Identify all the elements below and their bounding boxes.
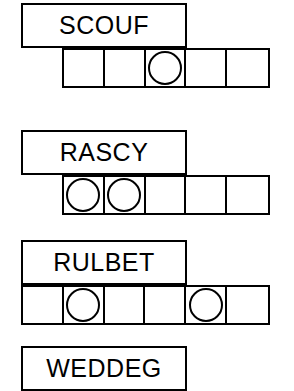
answer-cell[interactable] [145, 287, 186, 323]
answer-cell[interactable] [64, 177, 105, 213]
scrambled-word-text: SCOUF [59, 13, 149, 38]
scrambled-word-text: WEDDEG [46, 356, 162, 381]
answer-cell[interactable] [105, 50, 146, 86]
answer-cell[interactable] [64, 50, 105, 86]
highlight-circle-icon [66, 178, 100, 212]
scrambled-word-box-1: SCOUF [21, 3, 187, 48]
answer-grid-3 [21, 285, 270, 325]
answer-cell[interactable] [146, 50, 187, 86]
scrambled-word-text: RULBET [53, 250, 155, 275]
answer-cell[interactable] [105, 287, 146, 323]
answer-cell[interactable] [186, 287, 227, 323]
highlight-circle-icon [189, 288, 223, 322]
answer-grid-2 [62, 175, 270, 215]
scrambled-word-box-2: RASCY [21, 130, 187, 175]
answer-cell[interactable] [23, 287, 64, 323]
answer-cell[interactable] [186, 177, 227, 213]
scrambled-word-text: RASCY [60, 140, 149, 165]
answer-cell[interactable] [227, 177, 268, 213]
answer-cell[interactable] [64, 287, 105, 323]
answer-cell[interactable] [227, 50, 268, 86]
highlight-circle-icon [148, 51, 182, 85]
highlight-circle-icon [107, 178, 141, 212]
answer-cell[interactable] [105, 177, 146, 213]
scrambled-word-box-4: WEDDEG [21, 346, 187, 391]
highlight-circle-icon [66, 288, 100, 322]
answer-cell[interactable] [227, 287, 268, 323]
answer-grid-1 [62, 48, 270, 88]
answer-cell[interactable] [146, 177, 187, 213]
scrambled-word-box-3: RULBET [21, 240, 187, 285]
answer-cell[interactable] [186, 50, 227, 86]
